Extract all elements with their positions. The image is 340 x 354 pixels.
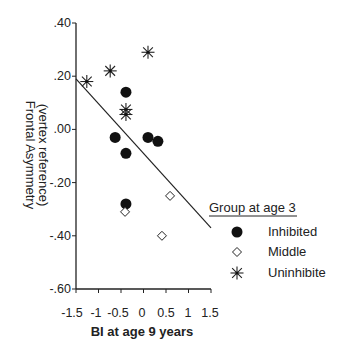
x-tick-label: -0.5 [107,306,129,320]
legend-label: Middle [268,244,306,259]
data-point-uninhibite [80,75,93,88]
x-tick-label: 1 [185,306,192,320]
legend-marker-middle [233,248,242,257]
legend-marker-uninhibite [231,267,244,280]
y-tick-label: -.20 [49,176,71,190]
y-axis-label: Frontal Asymmetry [23,101,38,210]
y-tick-label: -.40 [49,229,71,243]
x-tick-label: 0.5 [157,306,174,320]
regression-line [76,79,211,228]
data-point-uninhibite [104,64,117,77]
data-point-inhibited [152,136,163,147]
y-tick-label: .40 [54,16,71,30]
legend-title: Group at age 3 [209,200,296,215]
x-tick-label: 0 [139,306,146,320]
legend-label: Inhibited [268,224,317,239]
data-point-inhibited [110,132,121,143]
data-point-uninhibite [119,108,132,121]
data-point-uninhibite [142,46,155,59]
data-point-inhibited [120,148,131,159]
x-tick-label: -1.5 [61,306,83,320]
x-tick-label: -1 [90,306,101,320]
x-tick-label: 1.5 [201,306,218,320]
y-tick-label: -.60 [49,282,71,296]
y-tick-label: .00 [54,122,71,136]
x-axis-label: BI at age 9 years [91,324,194,339]
data-point-inhibited [143,132,154,143]
legend-marker-inhibited [232,227,243,238]
scatter-chart: .40.20.00-.20-.40-.60-1.5-1-0.500.511.5B… [0,0,340,354]
data-point-middle [157,231,166,240]
y-axis-label-2: (vertex reference) [36,104,51,207]
y-tick-label: .20 [54,69,71,83]
data-point-middle [166,191,175,200]
data-point-inhibited [120,87,131,98]
legend-label: Uninhibite [268,265,326,280]
